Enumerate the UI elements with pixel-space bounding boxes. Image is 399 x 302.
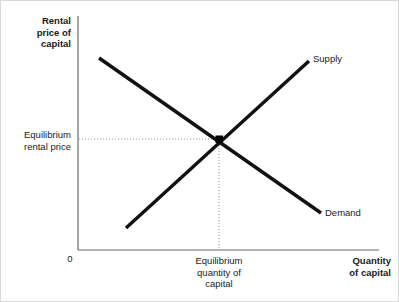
equilibrium-quantity-label: Equilibrium quantity of capital (179, 255, 259, 290)
supply-curve-label: Supply (313, 53, 383, 65)
y-axis-title: Rental price of capital (1, 15, 71, 50)
x-axis-title: Quantity of capital (297, 255, 391, 278)
demand-curve-label: Demand (325, 207, 395, 219)
supply-demand-chart: Rental price of capital Equilibrium rent… (0, 0, 399, 302)
equilibrium-point-marker[interactable] (216, 136, 224, 144)
origin-label: 0 (63, 253, 77, 265)
equilibrium-rental-price-label: Equilibrium rental price (1, 129, 71, 152)
supply-curve[interactable] (126, 61, 309, 228)
